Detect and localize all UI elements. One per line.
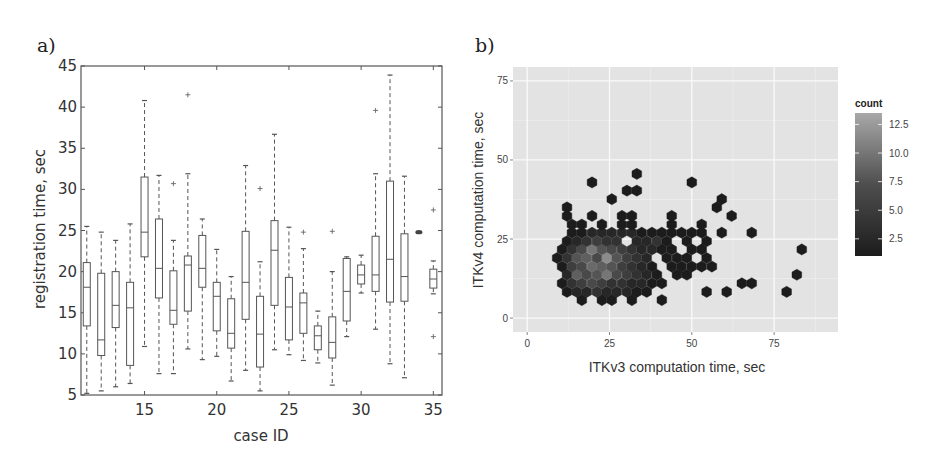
y-tick-label: 40: [58, 98, 77, 116]
iqr-box: [314, 326, 321, 350]
hexbin-x-axis-label: ITKv3 computation time, sec: [589, 359, 766, 375]
iqr-box: [98, 273, 105, 355]
y-tick-label: 30: [58, 180, 77, 198]
y-tick-label: 15: [58, 304, 77, 322]
x-tick-label: 15: [135, 401, 154, 419]
y-tick-label: 0: [502, 313, 508, 324]
iqr-box: [199, 235, 206, 287]
y-tick-label: 10: [58, 345, 77, 363]
iqr-box: [401, 234, 408, 301]
legend-tick-label: 2.5: [889, 233, 903, 244]
iqr-box: [257, 296, 264, 367]
y-tick-label: 25: [58, 222, 77, 240]
x-tick-label: 75: [769, 338, 781, 349]
iqr-box: [329, 317, 336, 358]
iqr-box: [127, 282, 134, 365]
x-tick-label: 20: [207, 401, 226, 419]
figure: a) b) 510152025303540451520253035 case I…: [0, 0, 945, 457]
iqr-box: [170, 271, 177, 324]
y-tick-label: 50: [497, 154, 509, 165]
legend-tick-label: 12.5: [889, 119, 909, 130]
y-tick-label: 45: [58, 57, 77, 75]
y-tick-label: 20: [58, 263, 77, 281]
iqr-box: [141, 177, 148, 257]
legend-tick-label: 7.5: [889, 176, 903, 187]
legend-tick-label: 5.0: [889, 205, 903, 216]
x-tick-label: 35: [424, 401, 443, 419]
degenerate-box-marker: [415, 230, 422, 234]
x-tick-label: 25: [279, 401, 298, 419]
legend-colorbar: [855, 113, 882, 256]
iqr-box: [387, 181, 394, 302]
x-tick-label: 30: [352, 401, 371, 419]
iqr-box: [155, 219, 162, 298]
iqr-box: [112, 272, 119, 328]
hexbin-panel: 02550750255075 ITKv3 computation time, s…: [470, 67, 909, 375]
iqr-box: [300, 293, 307, 333]
panel-a-label: a): [37, 34, 56, 56]
y-tick-label: 25: [497, 234, 509, 245]
iqr-box: [271, 221, 278, 306]
boxplot-y-axis-label: registration time, sec: [31, 149, 49, 309]
iqr-box: [184, 256, 191, 311]
boxplot-x-axis-label: case ID: [233, 427, 288, 445]
count-legend: count 2.55.07.510.012.5: [855, 98, 909, 256]
iqr-box: [242, 231, 249, 319]
iqr-box: [83, 263, 90, 326]
y-tick-label: 5: [67, 386, 77, 404]
box-case-34: [415, 230, 422, 234]
iqr-box: [343, 258, 350, 321]
iqr-box: [213, 282, 220, 331]
hexbin-y-axis-label: ITKv4 computation time, sec: [470, 112, 486, 289]
x-tick-label: 50: [686, 338, 698, 349]
y-tick-label: 75: [497, 75, 509, 86]
iqr-box: [285, 277, 292, 340]
legend-title: count: [855, 98, 883, 109]
iqr-box: [372, 236, 379, 291]
y-tick-label: 35: [58, 139, 77, 157]
boxplot-panel: 510152025303540451520253035 case ID regi…: [31, 57, 443, 445]
x-tick-label: 0: [524, 338, 530, 349]
panel-b-label: b): [475, 34, 495, 56]
x-tick-label: 25: [604, 338, 616, 349]
iqr-box: [228, 299, 235, 348]
legend-tick-label: 10.0: [889, 148, 909, 159]
